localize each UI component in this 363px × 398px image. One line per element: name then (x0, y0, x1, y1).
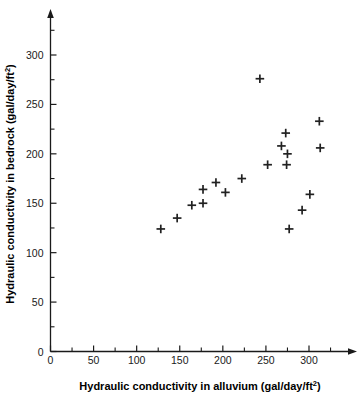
y-tick-label: 200 (26, 148, 44, 160)
data-point-marker (263, 160, 272, 169)
y-tick-label: 300 (26, 49, 44, 61)
data-point-marker (277, 142, 286, 151)
x-tick-label: 250 (257, 354, 275, 366)
plot-canvas: 050100150200250300 050100150200250300 Hy… (0, 0, 363, 398)
data-point-marker (316, 144, 325, 153)
data-point-marker (283, 150, 292, 159)
data-point-marker (298, 206, 307, 215)
x-axis-arrow-icon (348, 348, 357, 355)
data-point-marker (173, 214, 182, 223)
x-tick-label: 50 (88, 354, 100, 366)
data-point-marker (212, 178, 221, 187)
y-tick-label: 50 (32, 296, 44, 308)
data-point-marker (285, 225, 294, 234)
data-point-marker (306, 190, 315, 199)
y-axis-title: Hydraulic conductivity in bedrock (gal/d… (3, 64, 16, 304)
x-tick-label: 150 (171, 354, 189, 366)
x-tick-label: 200 (214, 354, 232, 366)
y-tick-label: 100 (26, 247, 44, 259)
y-tick-label: 150 (26, 197, 44, 209)
data-point-marker (199, 185, 208, 194)
data-point-marker (199, 199, 208, 208)
y-axis-arrow-icon (47, 9, 54, 18)
y-tick-label: 250 (26, 98, 44, 110)
y-axis (47, 9, 54, 352)
x-tick-label: 300 (300, 354, 318, 366)
y-axis-ticks (51, 30, 57, 351)
x-tick-label: 0 (48, 354, 54, 366)
data-point-marker (315, 117, 324, 126)
data-point-group (156, 74, 324, 233)
data-point-marker (282, 160, 291, 169)
data-point-marker (237, 174, 246, 183)
data-point-marker (281, 129, 290, 138)
data-point-marker (188, 201, 197, 210)
data-point-marker (156, 225, 165, 234)
scatter-plot-figure: 050100150200250300 050100150200250300 Hy… (0, 0, 363, 398)
x-axis-tick-labels: 050100150200250300 (48, 354, 318, 366)
y-tick-label: 0 (38, 346, 44, 358)
x-axis-ticks (51, 346, 331, 352)
data-point-marker (221, 188, 230, 197)
x-tick-label: 100 (128, 354, 146, 366)
data-point-marker (256, 74, 265, 83)
x-axis-title: Hydraulic conductivity in alluvium (gal/… (79, 379, 321, 392)
y-axis-tick-labels: 050100150200250300 (26, 49, 44, 358)
